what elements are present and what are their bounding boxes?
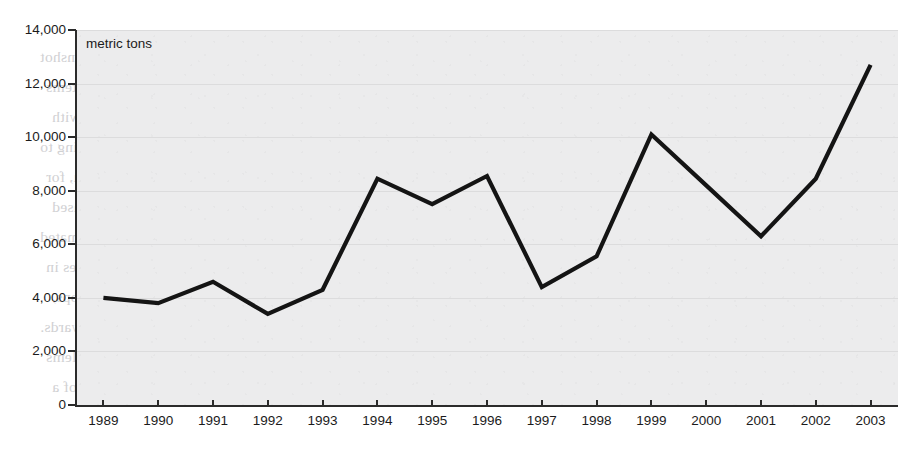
y-axis-tick — [68, 404, 76, 406]
y-axis-tick-label: 6,000 — [32, 236, 66, 251]
chart-page: lead from production (Global 2003). A la… — [0, 0, 909, 475]
series-line-production — [76, 30, 898, 405]
x-axis-tick-label: 1998 — [569, 413, 625, 428]
x-axis-tick-label: 1997 — [514, 413, 570, 428]
y-axis-tick — [68, 83, 76, 85]
x-axis-tick-label: 1991 — [185, 413, 241, 428]
y-axis-tick — [68, 297, 76, 299]
x-axis-tick-label: 2002 — [788, 413, 844, 428]
x-axis-tick-label: 1996 — [459, 413, 515, 428]
x-axis-tick-label: 1994 — [349, 413, 405, 428]
y-axis-tick — [68, 136, 76, 138]
y-axis-tick — [68, 29, 76, 31]
x-axis-tick-label: 2003 — [843, 413, 899, 428]
y-axis-tick-label: 10,000 — [25, 129, 66, 144]
y-axis-tick — [68, 243, 76, 245]
x-axis-tick-label: 1989 — [75, 413, 131, 428]
x-axis-tick-label: 1995 — [404, 413, 460, 428]
x-axis-tick-label: 1992 — [240, 413, 296, 428]
y-axis-tick-label: 8,000 — [32, 183, 66, 198]
y-axis-tick — [68, 190, 76, 192]
x-axis-tick-label: 1990 — [130, 413, 186, 428]
y-axis-tick-label: 0 — [58, 397, 66, 412]
x-axis-tick-label: 2001 — [733, 413, 789, 428]
x-axis-tick-label: 2000 — [678, 413, 734, 428]
y-axis-tick-label: 12,000 — [25, 76, 66, 91]
y-axis-tick — [68, 350, 76, 352]
x-axis-tick-label: 1999 — [623, 413, 679, 428]
y-axis-tick-label: 14,000 — [25, 22, 66, 37]
x-axis-tick-label: 1993 — [295, 413, 351, 428]
y-axis-tick-label: 2,000 — [32, 343, 66, 358]
y-axis-tick-label: 4,000 — [32, 290, 66, 305]
line-chart: 02,0004,0006,0008,00010,00012,00014,000 … — [0, 0, 909, 475]
